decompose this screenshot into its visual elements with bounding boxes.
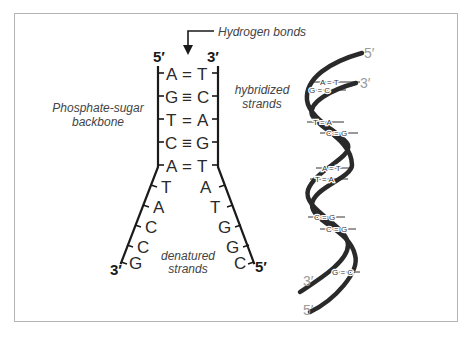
- hydrogen-bonds-label: Hydrogen bonds: [218, 25, 306, 39]
- denatured-right-base: T: [210, 198, 220, 217]
- prime-3-bottom-left: 3′: [110, 261, 122, 278]
- helix-pair: A = T: [322, 164, 341, 173]
- svg-text:=: =: [182, 65, 192, 84]
- arrow-down-icon: [183, 45, 193, 55]
- svg-text:T: T: [197, 157, 207, 176]
- denatured-label-line1: denatured: [161, 249, 215, 263]
- svg-text:T: T: [166, 111, 176, 130]
- helix-pair: T = A: [315, 175, 334, 184]
- svg-text:=: =: [182, 157, 192, 176]
- hybridized-pair: A = T: [166, 157, 207, 176]
- denatured-right-base: A: [200, 178, 212, 197]
- hybridized-pair: T = A: [166, 111, 209, 130]
- dna-diagram: Hydrogen bonds 5′ 3′ A = T G ≡ C: [0, 0, 473, 341]
- denatured-right-base: C: [234, 254, 246, 273]
- helix-pair: G = C: [309, 86, 330, 95]
- svg-text:A: A: [166, 65, 178, 84]
- hydrogen-bonds-pointer: Hydrogen bonds: [183, 25, 306, 55]
- hybridized-label-line2: strands: [242, 97, 281, 111]
- hybridized-label-line1: hybridized: [235, 83, 290, 97]
- helix-prime-5-bottom: 5′: [303, 302, 314, 318]
- backbone-label-line1: Phosphate-sugar: [52, 101, 144, 115]
- svg-text:C: C: [197, 88, 209, 107]
- helix-pair: T = A: [313, 118, 332, 127]
- svg-text:G: G: [196, 134, 209, 153]
- denatured-left-base: T: [161, 178, 171, 197]
- svg-text:G: G: [165, 88, 178, 107]
- svg-text:≡: ≡: [182, 88, 192, 107]
- helix-pair: C = G: [314, 213, 335, 222]
- svg-text:≡: ≡: [182, 134, 192, 153]
- denatured-left-base: G: [129, 254, 142, 273]
- double-helix: A = T G = C T = A C = G A = T T = A C = …: [300, 45, 375, 318]
- helix-prime-3-top: 3′: [360, 75, 371, 91]
- denatured-left-base: A: [153, 198, 165, 217]
- prime-5-bottom-right: 5′: [255, 258, 267, 275]
- svg-text:A: A: [197, 111, 209, 130]
- denatured-left-base: C: [145, 218, 157, 237]
- prime-3-top-right: 3′: [207, 48, 219, 65]
- ladder-diagram: Hydrogen bonds 5′ 3′ A = T G ≡ C: [52, 25, 306, 278]
- hybridized-pair: A = T: [166, 65, 207, 84]
- helix-pair: C = G: [326, 129, 347, 138]
- hybridized-pair: G ≡ C: [165, 88, 209, 107]
- svg-text:C: C: [165, 134, 177, 153]
- svg-text:A: A: [166, 157, 178, 176]
- denatured-label-line2: strands: [168, 262, 207, 276]
- svg-text:=: =: [182, 111, 192, 130]
- denatured-right-base: G: [218, 218, 231, 237]
- prime-5-top-left: 5′: [153, 48, 165, 65]
- backbone-label-line2: backbone: [72, 115, 124, 129]
- svg-text:T: T: [197, 65, 207, 84]
- helix-pair: C = G: [326, 225, 347, 234]
- helix-prime-5-top: 5′: [364, 45, 375, 61]
- helix-prime-3-bottom: 3′: [303, 273, 314, 289]
- helix-pair: G = C: [332, 268, 353, 277]
- hybridized-pair: C ≡ G: [165, 134, 209, 153]
